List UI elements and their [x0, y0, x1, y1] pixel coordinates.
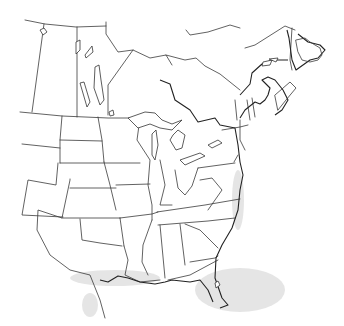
lake-st-john — [262, 60, 272, 66]
outline-map — [0, 0, 344, 326]
coastline — [100, 30, 325, 308]
